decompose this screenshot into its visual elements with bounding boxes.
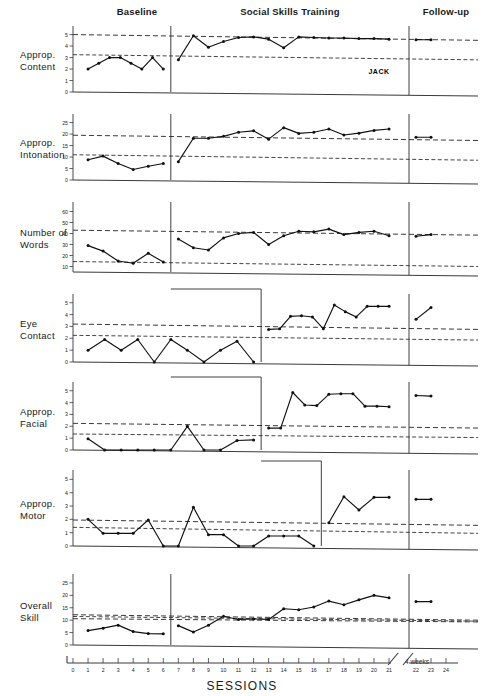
reference-line bbox=[73, 520, 478, 525]
data-point bbox=[415, 318, 418, 321]
y-tick-label: 1 bbox=[65, 435, 68, 441]
data-point bbox=[267, 38, 270, 41]
data-point bbox=[117, 162, 120, 165]
y-tick-label: 0 bbox=[65, 447, 68, 453]
data-point bbox=[147, 252, 150, 255]
data-point bbox=[267, 535, 270, 538]
y-tick-label: 1 bbox=[65, 530, 68, 536]
panel-approp-content: Approp.Content012345 bbox=[20, 26, 478, 96]
y-tick-label: 40 bbox=[62, 231, 68, 237]
y-tick-label: 20 bbox=[62, 592, 68, 598]
data-point bbox=[132, 168, 135, 171]
panel-eye-contact: EyeContact012345 bbox=[20, 289, 478, 366]
panel-number-of-words: Number ofWords102030405060 bbox=[20, 202, 478, 276]
data-point bbox=[87, 349, 90, 352]
data-point bbox=[430, 498, 433, 501]
phase-header-baseline: Baseline bbox=[117, 6, 158, 17]
data-point bbox=[222, 533, 225, 536]
x-tick-label: 9 bbox=[207, 667, 210, 673]
data-point bbox=[162, 162, 165, 165]
data-point bbox=[236, 340, 239, 343]
y-tick-label: 5 bbox=[65, 32, 68, 38]
data-point bbox=[312, 36, 315, 39]
panel-label-number-of-words-line2: Words bbox=[20, 239, 49, 250]
x-tick-label-followup: 22 bbox=[413, 667, 419, 673]
panel-approp-facial: Approp.Facial012345 bbox=[20, 377, 478, 454]
data-point bbox=[342, 495, 345, 498]
panel-label-eye-contact: Eye bbox=[20, 318, 37, 329]
data-point bbox=[237, 618, 240, 621]
y-tick-label: 0 bbox=[65, 359, 68, 365]
data-point bbox=[177, 545, 180, 548]
series-line-baseline bbox=[88, 156, 163, 169]
panel-label-approp-motor-line2: Motor bbox=[20, 510, 46, 521]
data-point bbox=[282, 535, 285, 538]
data-point bbox=[120, 349, 123, 352]
data-point bbox=[267, 328, 270, 331]
data-point bbox=[186, 425, 189, 428]
y-tick-label: 3 bbox=[65, 55, 68, 61]
series-line-training bbox=[269, 305, 389, 329]
x-tick-label: 20 bbox=[371, 667, 377, 673]
data-point bbox=[103, 449, 106, 452]
phase-header-training: Social Skills Training bbox=[240, 6, 339, 17]
data-point bbox=[177, 58, 180, 61]
y-tick-label: 0 bbox=[65, 543, 68, 549]
y-tick-label: 5 bbox=[65, 300, 68, 306]
x-tick-label: 0 bbox=[72, 667, 75, 673]
data-point bbox=[322, 327, 325, 330]
y-tick-label: 10 bbox=[62, 264, 68, 270]
data-point bbox=[279, 427, 282, 430]
panel-label-overall-skill-line2: Skill bbox=[20, 612, 39, 623]
panel-label-number-of-words: Number of bbox=[20, 227, 67, 238]
data-point bbox=[312, 230, 315, 233]
y-tick-label: 4 bbox=[65, 490, 68, 496]
data-point bbox=[202, 361, 205, 364]
data-point bbox=[153, 361, 156, 364]
data-point bbox=[236, 439, 239, 442]
data-point bbox=[102, 250, 105, 253]
data-point bbox=[297, 230, 300, 233]
data-point bbox=[222, 615, 225, 618]
data-point bbox=[97, 62, 100, 65]
data-point bbox=[147, 519, 150, 522]
data-point bbox=[252, 438, 255, 441]
data-point bbox=[169, 449, 172, 452]
y-tick-label: 30 bbox=[62, 242, 68, 248]
x-tick-label: 13 bbox=[266, 667, 272, 673]
y-tick-label: 20 bbox=[62, 131, 68, 137]
y-tick-label: 2 bbox=[65, 66, 68, 72]
panel-approp-motor: Approp.Motor012345 bbox=[20, 461, 478, 550]
panel-label-approp-content-line2: Content bbox=[20, 61, 55, 72]
data-point bbox=[252, 129, 255, 132]
data-point bbox=[373, 129, 376, 132]
data-point bbox=[140, 68, 143, 71]
panel-label-approp-intonation: Approp. bbox=[20, 137, 55, 148]
series-line-followup bbox=[416, 307, 431, 319]
y-tick-label: 3 bbox=[65, 323, 68, 329]
data-point bbox=[103, 338, 106, 341]
data-point bbox=[219, 449, 222, 452]
data-point bbox=[333, 304, 336, 307]
data-point bbox=[136, 449, 139, 452]
panel-overall-skill: OverallSkill0510152025 bbox=[20, 574, 478, 649]
data-point bbox=[147, 165, 150, 168]
y-tick-label: 4 bbox=[65, 312, 68, 318]
data-point bbox=[267, 618, 270, 621]
data-point bbox=[87, 437, 90, 440]
data-point bbox=[207, 624, 210, 627]
data-point bbox=[192, 34, 195, 37]
data-point bbox=[237, 232, 240, 235]
data-point bbox=[202, 449, 205, 452]
data-point bbox=[388, 38, 391, 41]
data-point bbox=[297, 35, 300, 38]
data-point bbox=[252, 35, 255, 38]
data-point bbox=[388, 496, 391, 499]
series-line-baseline bbox=[88, 246, 163, 264]
x-tick-label: 1 bbox=[87, 667, 90, 673]
data-point bbox=[117, 624, 120, 627]
data-point bbox=[222, 135, 225, 138]
series-line-training bbox=[178, 595, 389, 632]
y-tick-label: 5 bbox=[65, 166, 68, 172]
series-line-baseline bbox=[88, 339, 254, 362]
